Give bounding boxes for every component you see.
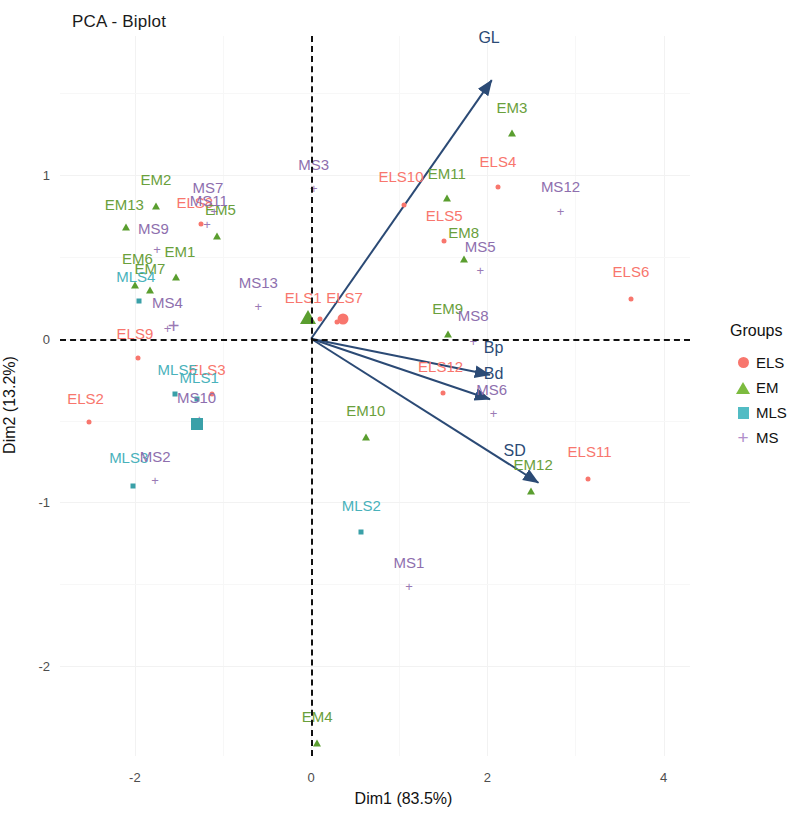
point-label: ELS4 xyxy=(480,153,517,170)
y-axis-label: Dim2 (13.2%) xyxy=(1,315,19,495)
point-label: MS8 xyxy=(458,307,489,324)
point-marker xyxy=(313,739,321,746)
point-label: ELS1 xyxy=(285,289,322,306)
point-marker xyxy=(628,297,633,302)
x-tick-label: 4 xyxy=(660,770,667,785)
point-marker xyxy=(556,210,565,219)
point-marker xyxy=(317,317,322,322)
point-marker xyxy=(213,232,221,239)
point-label: MS13 xyxy=(239,274,278,291)
pca-biplot-figure: PCA - Biplot ELS1ELS2ELS3ELS4ELS5ELS6ELS… xyxy=(0,0,807,832)
point-marker xyxy=(404,585,413,594)
point-marker xyxy=(254,305,263,314)
point-label: MS1 xyxy=(394,554,425,571)
point-label: ELS12 xyxy=(418,358,463,375)
point-marker xyxy=(476,269,485,278)
point-label: MS12 xyxy=(541,178,580,195)
legend-swatch-triangle-icon xyxy=(730,382,756,394)
point-marker xyxy=(460,255,468,262)
legend-swatch-plus-icon: + xyxy=(730,431,756,445)
legend-marker xyxy=(738,407,749,419)
legend-title: Groups xyxy=(730,322,807,340)
legend-item-mls[interactable]: MLS xyxy=(730,400,807,425)
legend-swatch-circle-icon xyxy=(730,357,756,368)
point-marker xyxy=(444,330,452,337)
x-tick-label: 0 xyxy=(307,770,314,785)
legend-label: ELS xyxy=(756,354,784,371)
legend: Groups ELSEMMLS+MS xyxy=(730,322,807,450)
group-centroid-els xyxy=(337,314,348,325)
point-marker xyxy=(151,478,160,487)
point-label: ELS5 xyxy=(426,207,463,224)
point-marker xyxy=(146,286,154,293)
y-tick-label: 1 xyxy=(43,168,50,183)
point-label: ELS10 xyxy=(378,168,423,185)
point-label: MLS4 xyxy=(116,268,155,285)
point-marker xyxy=(87,420,92,425)
point-label: MS9 xyxy=(138,220,169,237)
legend-item-em[interactable]: EM xyxy=(730,375,807,400)
point-label: ELS11 xyxy=(568,443,612,460)
point-label: MS2 xyxy=(140,448,171,465)
point-label: EM13 xyxy=(105,196,144,213)
point-label: EM3 xyxy=(497,99,528,116)
variable-label-bd: Bd xyxy=(484,365,504,383)
point-marker xyxy=(495,184,500,189)
point-label: ELS7 xyxy=(326,289,363,306)
point-label: MS6 xyxy=(476,381,507,398)
point-label: EM4 xyxy=(302,708,333,725)
point-marker xyxy=(203,223,212,232)
point-marker xyxy=(137,299,142,304)
point-marker xyxy=(443,195,451,202)
legend-item-ms[interactable]: +MS xyxy=(730,425,807,450)
x-tick-label: 2 xyxy=(484,770,491,785)
point-marker xyxy=(122,224,130,231)
origin-axis-vertical xyxy=(311,36,313,756)
legend-marker: + xyxy=(737,431,748,445)
point-label: MS5 xyxy=(465,238,496,255)
legend-label: MLS xyxy=(756,404,787,421)
group-centroid-em xyxy=(300,310,316,324)
point-marker xyxy=(527,487,535,494)
variable-label-gl: GL xyxy=(478,29,499,47)
x-tick-label: -2 xyxy=(129,770,141,785)
point-marker xyxy=(152,203,160,210)
legend-marker xyxy=(738,357,749,368)
origin-axis-horizontal xyxy=(60,339,690,341)
point-marker xyxy=(362,433,370,440)
point-label: MS4 xyxy=(152,294,183,311)
point-marker xyxy=(359,529,364,534)
point-marker xyxy=(442,238,447,243)
y-tick-label: -1 xyxy=(38,495,50,510)
plot-panel: ELS1ELS2ELS3ELS4ELS5ELS6ELS7ELS8ELS9ELS1… xyxy=(60,36,690,756)
x-axis-label: Dim1 (83.5%) xyxy=(0,790,807,808)
point-marker xyxy=(585,477,590,482)
point-label: EM2 xyxy=(141,171,172,188)
point-marker xyxy=(136,356,141,361)
point-label: MS3 xyxy=(298,156,329,173)
point-label: MLS2 xyxy=(342,497,381,514)
point-label: ELS6 xyxy=(613,263,650,280)
legend-rows: ELSEMMLS+MS xyxy=(730,350,807,450)
point-marker xyxy=(131,484,136,489)
point-label: EM1 xyxy=(164,243,195,260)
legend-label: EM xyxy=(756,379,779,396)
point-label: EM10 xyxy=(346,402,385,419)
y-tick-label: -2 xyxy=(38,659,50,674)
point-marker xyxy=(489,411,498,420)
point-marker xyxy=(441,390,446,395)
group-centroid-ms xyxy=(169,328,178,337)
point-label: EM11 xyxy=(428,165,466,182)
point-label: MLS5 xyxy=(158,361,197,378)
point-marker xyxy=(172,273,180,280)
point-label: MS11 xyxy=(190,192,228,209)
legend-label: MS xyxy=(756,429,779,446)
point-label: ELS2 xyxy=(67,390,104,407)
legend-marker xyxy=(736,382,750,394)
point-marker xyxy=(401,202,406,207)
y-axis-label-wrap: Dim2 (13.2%) xyxy=(0,0,20,832)
y-tick-label: 0 xyxy=(43,331,50,346)
legend-item-els[interactable]: ELS xyxy=(730,350,807,375)
variable-label-bp: Bp xyxy=(484,339,504,357)
group-centroid-mls xyxy=(191,418,203,430)
